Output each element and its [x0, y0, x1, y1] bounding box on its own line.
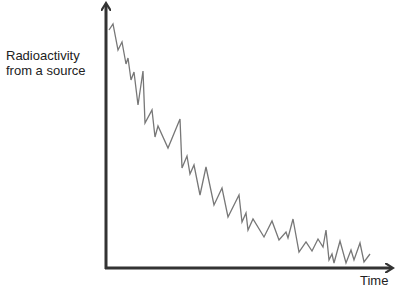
decay-chart [0, 0, 397, 293]
y-axis-label-line-2: from a source [6, 63, 85, 78]
decay-line [109, 24, 370, 263]
y-axis-label: Radioactivity from a source [6, 48, 85, 78]
x-axis-label: Time [360, 273, 388, 288]
y-axis-label-line-1: Radioactivity [6, 48, 85, 63]
